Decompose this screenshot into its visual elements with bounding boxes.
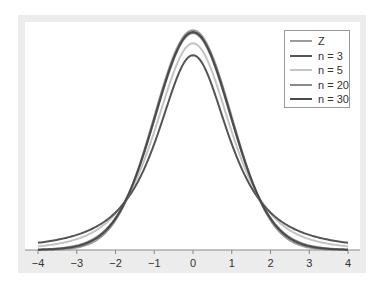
x-tick-label: 2	[267, 257, 273, 269]
x-tick-label: 4	[345, 257, 351, 269]
x-tick-label: −4	[32, 257, 45, 269]
legend: Z n = 3 n = 5 n = 20 n = 30	[284, 30, 350, 108]
legend-item-n3: n = 3	[290, 49, 349, 64]
x-axis-ticks	[38, 250, 348, 254]
legend-item-n30: n = 30	[290, 92, 349, 107]
legend-label-n30: n = 30	[318, 93, 349, 105]
legend-item-z: Z	[290, 34, 349, 49]
legend-label-n20: n = 20	[318, 79, 349, 91]
legend-item-n20: n = 20	[290, 78, 349, 93]
legend-swatch-z	[290, 40, 312, 42]
x-tick-label: −1	[148, 257, 161, 269]
legend-swatch-n20	[290, 84, 312, 86]
x-tick-label: −2	[109, 257, 122, 269]
legend-label-n5: n = 5	[318, 64, 343, 76]
legend-swatch-n3	[290, 55, 312, 57]
x-tick-label: 1	[229, 257, 235, 269]
legend-swatch-n30	[290, 98, 312, 100]
legend-label-n3: n = 3	[318, 50, 343, 62]
x-tick-label: 3	[306, 257, 312, 269]
legend-label-z: Z	[318, 35, 325, 47]
x-tick-label: 0	[190, 257, 196, 269]
x-tick-label: −3	[70, 257, 83, 269]
legend-item-n5: n = 5	[290, 63, 349, 78]
legend-swatch-n5	[290, 69, 312, 71]
